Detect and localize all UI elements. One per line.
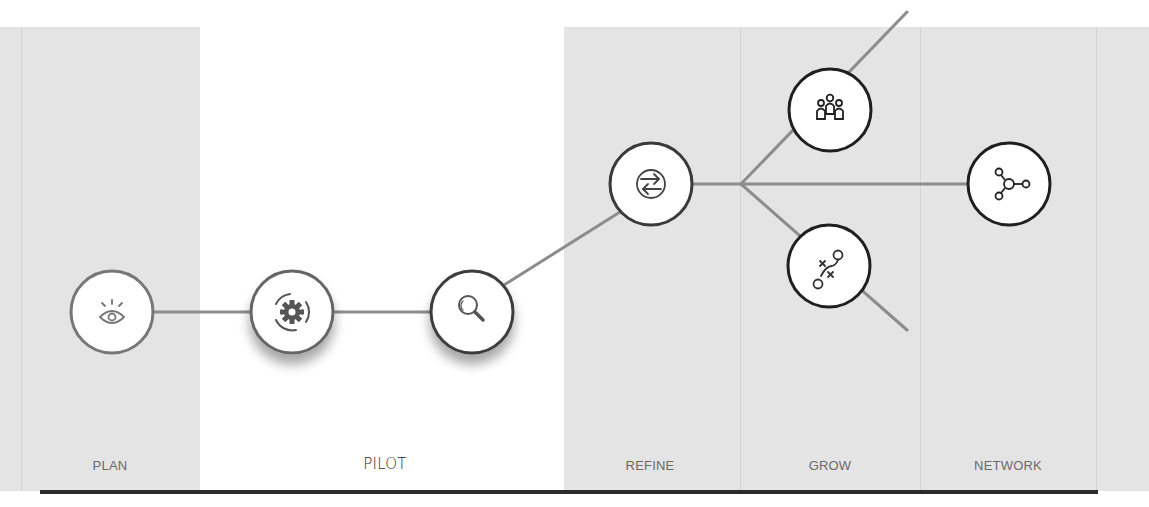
node-iterate: [610, 143, 692, 225]
node-strategy: [788, 225, 870, 307]
edge-review-iterate: [504, 212, 620, 285]
timeline-baseline: [40, 490, 1098, 494]
node-connect: [968, 143, 1050, 225]
stage-label-plan: PLAN: [40, 458, 180, 473]
stage-label-refine: REFINE: [570, 458, 730, 473]
node-community: [789, 69, 871, 151]
stage-label-pilot: PILOT: [300, 455, 470, 473]
stage-label-grow: GROW: [750, 458, 910, 473]
flow-diagram: [0, 0, 1149, 507]
node-vision: [71, 271, 153, 353]
stage-label-network: NETWORK: [928, 458, 1088, 473]
